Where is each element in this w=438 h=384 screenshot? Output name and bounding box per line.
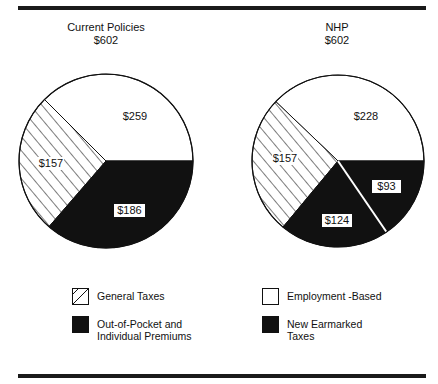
legend-general-taxes-label: General Taxes (97, 290, 165, 302)
legend-new-earmarked-line1: New Earmarked (287, 318, 362, 330)
right-label-out-of-pocket: $124 (325, 214, 349, 226)
right-label-earmarked: $93 (377, 180, 395, 192)
left-label-out-of-pocket: $186 (117, 204, 141, 216)
white-swatch-icon (262, 288, 279, 305)
left-label-employment: $259 (123, 110, 147, 122)
legend-out-of-pocket: Out-of-Pocket and Individual Premiums (72, 316, 192, 342)
legend-employment-based-label: Employment -Based (287, 290, 382, 302)
hatched-swatch-icon (72, 288, 89, 305)
legend-out-of-pocket-line1: Out-of-Pocket and (97, 318, 192, 330)
right-label-employment: $228 (354, 110, 378, 122)
black-swatch-icon (262, 316, 279, 333)
legend-new-earmarked-line2: Taxes (287, 330, 362, 342)
legend-general-taxes: General Taxes (72, 288, 165, 305)
pie-charts: $259 $157 $186 $228 $157 $93 $124 (0, 0, 438, 384)
bottom-rule (18, 374, 426, 378)
legend-out-of-pocket-line2: Individual Premiums (97, 330, 192, 342)
left-label-general: $157 (39, 157, 63, 169)
legend-new-earmarked-taxes: New Earmarked Taxes (262, 316, 362, 342)
black-swatch-icon (72, 316, 89, 333)
right-label-general: $157 (273, 152, 297, 164)
legend-employment-based: Employment -Based (262, 288, 382, 305)
